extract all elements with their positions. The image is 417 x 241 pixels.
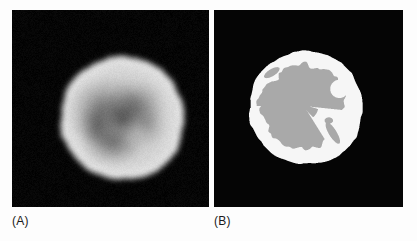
- figure-container: (A) (B): [0, 0, 417, 241]
- panel-b: [214, 10, 403, 207]
- panel-a: [12, 10, 209, 207]
- panel-b-caption: (B): [214, 214, 231, 228]
- panel-a-image: [12, 10, 209, 207]
- panel-b-image: [214, 10, 403, 207]
- panel-a-caption: (A): [12, 214, 29, 228]
